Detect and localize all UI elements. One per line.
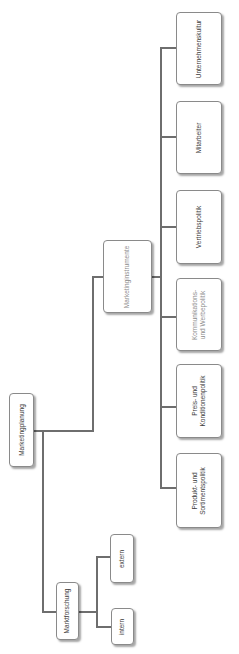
node-produktpolitik: Produkt- und Sortimentspolitik [176, 453, 222, 528]
node-mitarbeiter: Mitarbeiter [176, 101, 222, 174]
node-label: intern [118, 618, 126, 634]
connector-to-vertriebspolitik [160, 226, 176, 228]
node-label: Kommunikations- und Werbepolitik [191, 289, 207, 339]
node-vertriebspolitik: Vertriebspolitik [176, 190, 222, 264]
connector-to-produktpolitik [160, 487, 176, 489]
connector-marktforschung-bus [96, 556, 98, 628]
connector-to-preispolitik [160, 406, 176, 408]
node-kommunikationspolitik: Kommunikations- und Werbepolitik [176, 278, 222, 351]
connector-to-kommunikationspolitik [160, 316, 176, 318]
node-label: Produkt- und Sortimentspolitik [191, 467, 207, 515]
connector-instrumente-bus [160, 47, 162, 489]
node-preispolitik: Preis- und Konditionenpolitik [176, 364, 222, 438]
connector-to-unternehmenskultur [160, 47, 176, 49]
node-label: extern [118, 549, 126, 567]
connector-root-down [42, 430, 44, 613]
connector-to-mitarbeiter [160, 136, 176, 138]
node-marketingplanung: Marketingplanung [9, 393, 34, 467]
node-label: Marketinginstrumente [124, 245, 132, 308]
node-extern: extern [110, 534, 134, 583]
node-label: Marktforschung [64, 589, 72, 634]
connector-to-instrumente-vertical [92, 276, 94, 432]
connector-to-marktforschung [42, 611, 56, 613]
node-marketinginstrumente: Marketinginstrumente [103, 240, 152, 313]
node-unternehmenskultur: Unternehmenskultur [176, 12, 222, 85]
connector-to-extern [96, 556, 110, 558]
connector-to-intern [96, 626, 111, 628]
node-label: Preis- und Konditionenpolitik [191, 376, 207, 427]
node-label: Unternehmenskultur [195, 19, 203, 78]
connector-to-instrumente [92, 276, 103, 278]
node-label: Vertriebspolitik [195, 206, 203, 248]
node-label: Marketingplanung [18, 404, 26, 456]
node-marktforschung: Marktforschung [56, 582, 79, 640]
node-intern: intern [111, 608, 134, 645]
node-label: Mitarbeiter [195, 122, 203, 153]
